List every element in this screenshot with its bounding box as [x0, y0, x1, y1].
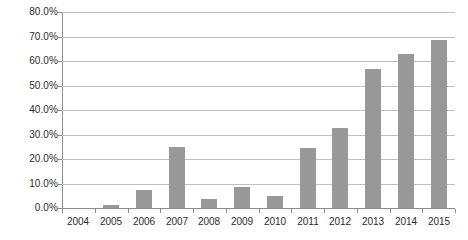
y-axis-tick-label: 40.0% — [6, 105, 58, 115]
y-axis-tick-mark — [57, 37, 62, 38]
y-axis-tick-label: 60.0% — [6, 56, 58, 66]
bar-2006 — [136, 190, 152, 208]
x-axis-tick-mark — [226, 209, 227, 213]
x-axis-tick-label-2015: 2015 — [423, 216, 455, 227]
x-axis-tick-label-2014: 2014 — [390, 216, 422, 227]
x-axis-tick-label-2012: 2012 — [324, 216, 356, 227]
x-axis-tick-label-2004: 2004 — [62, 216, 94, 227]
y-axis-tick-mark — [57, 135, 62, 136]
x-axis-tick-mark — [259, 209, 260, 213]
bar-2011 — [300, 148, 316, 208]
bar-2008 — [201, 199, 217, 208]
x-axis-tick-mark — [160, 209, 161, 213]
bar-2007 — [169, 147, 185, 208]
x-axis-tick-mark — [291, 209, 292, 213]
x-axis-tick-label-2011: 2011 — [292, 216, 324, 227]
x-axis-tick-label-2006: 2006 — [128, 216, 160, 227]
bar-2015 — [431, 40, 447, 208]
x-axis-tick-mark — [128, 209, 129, 213]
x-axis-tick-mark — [357, 209, 358, 213]
bar-chart: 0.0%10.0%20.0%30.0%40.0%50.0%60.0%70.0%8… — [0, 0, 468, 240]
y-axis-tick-label: 70.0% — [6, 32, 58, 42]
x-axis-tick-label-2007: 2007 — [161, 216, 193, 227]
x-axis-tick-label-2008: 2008 — [193, 216, 225, 227]
y-axis-tick-mark — [57, 61, 62, 62]
bar-2014 — [398, 54, 414, 208]
y-axis-tick-label: 10.0% — [6, 179, 58, 189]
x-axis-tick-label-2010: 2010 — [259, 216, 291, 227]
y-axis-tick-mark — [57, 86, 62, 87]
y-axis-tick-mark — [57, 159, 62, 160]
y-axis-tick-label: 30.0% — [6, 130, 58, 140]
bar-2005 — [103, 205, 119, 208]
bar-2012 — [332, 128, 348, 208]
x-axis-tick-mark — [422, 209, 423, 213]
x-axis-tick-mark — [62, 209, 63, 213]
x-axis-tick-label-2009: 2009 — [226, 216, 258, 227]
bar-2013 — [365, 69, 381, 208]
y-axis-tick-mark — [57, 184, 62, 185]
y-axis-tick-mark — [57, 110, 62, 111]
y-axis-tick-label: 0.0% — [6, 203, 58, 213]
y-axis-tick-label: 80.0% — [6, 7, 58, 17]
x-axis-tick-mark — [455, 209, 456, 213]
x-axis-tick-label-2013: 2013 — [357, 216, 389, 227]
bars-layer — [62, 12, 455, 208]
x-axis-tick-mark — [324, 209, 325, 213]
x-axis-tick-mark — [193, 209, 194, 213]
y-axis-tick-label: 50.0% — [6, 81, 58, 91]
x-axis-tick-mark — [95, 209, 96, 213]
y-axis-tick-mark — [57, 12, 62, 13]
y-axis-tick-label: 20.0% — [6, 154, 58, 164]
x-axis-tick-label-2005: 2005 — [95, 216, 127, 227]
bar-2009 — [234, 187, 250, 208]
x-axis-tick-mark — [390, 209, 391, 213]
bar-2010 — [267, 196, 283, 208]
